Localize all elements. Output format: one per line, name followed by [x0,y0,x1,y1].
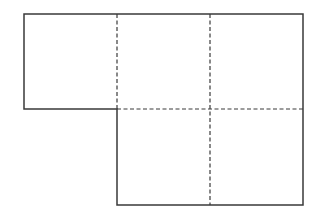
square-net-diagram [0,0,322,216]
interior-fold-lines [117,14,303,205]
diagram-canvas [0,0,322,216]
